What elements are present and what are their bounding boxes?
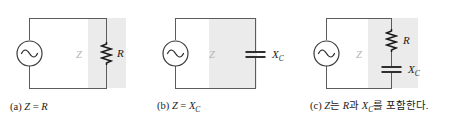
circuit-wire-right-upper-b xyxy=(255,18,256,51)
resistor-label-text-a: R xyxy=(117,47,124,59)
capacitor-label-text-b: X xyxy=(272,48,279,60)
ac-source-symbol-c xyxy=(313,40,340,67)
capacitor-label-text-c: X xyxy=(408,63,415,75)
caption-lhs-b: Z xyxy=(172,100,178,111)
impedance-marker-c: Z xyxy=(356,50,362,61)
resistor-label-a: R xyxy=(117,48,124,59)
ac-source-symbol-b xyxy=(162,40,189,67)
caption-a: (a) Z = R xyxy=(10,101,48,114)
caption-eq-b: = xyxy=(180,100,186,111)
circuit-wire-right-upper-a xyxy=(106,18,107,42)
circuit-wire-bottom-a xyxy=(29,88,107,89)
caption-b: (b) Z = XC xyxy=(157,100,200,114)
circuit-wire-right-mid-c xyxy=(391,51,392,66)
impedance-marker-text-b: Z xyxy=(209,49,215,60)
circuit-wire-left-lower-b xyxy=(175,66,176,89)
caption-lhs-a: Z xyxy=(24,101,30,112)
impedance-marker-b: Z xyxy=(209,50,215,61)
circuit-wire-right-lower-b xyxy=(255,58,256,89)
caption-part6-c: 를 포함한다. xyxy=(373,100,428,111)
circuit-wire-right-top-c xyxy=(391,18,392,29)
resistor-symbol-c xyxy=(385,29,398,52)
resistor-label-text-c: R xyxy=(403,34,410,46)
caption-tag-a: (a) xyxy=(10,101,22,112)
resistor-label-c: R xyxy=(403,35,410,46)
impedance-marker-text-c: Z xyxy=(356,49,362,60)
capacitor-label-sub-c: C xyxy=(415,69,420,78)
caption-tag-c: (c) xyxy=(310,100,322,111)
circuit-wire-top-a xyxy=(29,18,107,19)
circuit-wire-left-upper-a xyxy=(29,18,30,40)
circuit-panel-c: R XC Z (c) Z는 R과 XC를 포함한다. xyxy=(298,0,451,118)
circuit-wire-top-c xyxy=(326,18,392,19)
caption-rhs-sub-b: C xyxy=(195,105,200,114)
caption-tag-b: (b) xyxy=(157,100,169,111)
capacitor-label-c: XC xyxy=(408,64,420,78)
impedance-marker-a: Z xyxy=(76,50,82,61)
circuit-panel-a: R Z (a) Z = R xyxy=(0,0,150,118)
circuit-panel-b: XC Z (b) Z = XC xyxy=(147,0,299,118)
circuit-wire-top-b xyxy=(175,18,256,19)
caption-part4-c: 과 xyxy=(349,100,362,111)
caption-c: (c) Z는 R과 XC를 포함한다. xyxy=(310,100,428,114)
circuit-wire-right-lower-a xyxy=(106,64,107,89)
caption-part2-c: 는 xyxy=(330,100,343,111)
capacitor-label-b: XC xyxy=(272,49,284,63)
impedance-circuits-figure: R Z (a) Z = R xyxy=(0,0,451,118)
capacitor-symbol-c xyxy=(381,65,402,74)
resistor-symbol-a xyxy=(100,42,113,65)
circuit-wire-bottom-c xyxy=(326,88,392,89)
caption-eq-a: = xyxy=(33,101,39,112)
caption-rhs-a: R xyxy=(41,101,47,112)
impedance-marker-text-a: Z xyxy=(76,49,82,60)
capacitor-symbol-b xyxy=(245,50,266,59)
circuit-wire-right-bottom-c xyxy=(391,73,392,89)
capacitor-label-sub-b: C xyxy=(279,54,284,63)
ac-source-symbol-a xyxy=(16,40,43,67)
circuit-wire-left-lower-a xyxy=(29,66,30,89)
circuit-wire-left-upper-c xyxy=(326,18,327,40)
circuit-wire-left-lower-c xyxy=(326,66,327,89)
circuit-wire-left-upper-b xyxy=(175,18,176,40)
circuit-wire-bottom-b xyxy=(175,88,256,89)
